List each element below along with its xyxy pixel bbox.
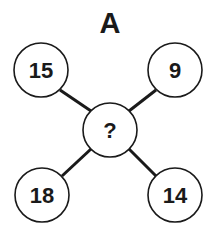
node-top-right: 9 — [148, 43, 202, 97]
node-label: 15 — [29, 58, 53, 83]
node-label: 14 — [163, 183, 188, 208]
node-label: 18 — [30, 183, 54, 208]
node-label: 9 — [169, 58, 181, 83]
node-top-left: 15 — [14, 43, 68, 97]
node-bottom-left: 18 — [15, 168, 69, 222]
edge-bottom-left — [62, 149, 91, 176]
diagram-title: A — [100, 7, 121, 39]
edge-top-right — [129, 90, 156, 111]
node-center: ? — [83, 103, 137, 157]
number-puzzle-diagram: A 15 9 ? 18 14 — [0, 0, 222, 240]
edge-top-left — [60, 90, 91, 111]
node-bottom-right: 14 — [148, 168, 202, 222]
edge-bottom-right — [129, 149, 156, 176]
center-label: ? — [103, 118, 116, 143]
